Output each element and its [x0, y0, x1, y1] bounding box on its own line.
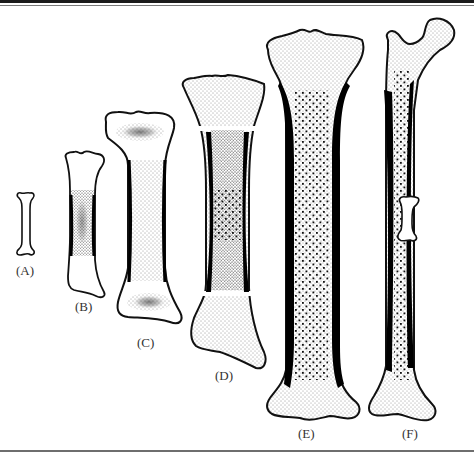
bone-stage-c: [106, 111, 182, 323]
label-stage-b: (B): [75, 299, 92, 314]
bone-stage-d: [183, 75, 266, 368]
label-stage-f: (F): [402, 426, 418, 441]
label-stage-a: (A): [16, 263, 34, 278]
label-stage-e: (E): [298, 426, 315, 441]
label-stage-d: (D): [215, 368, 233, 383]
bone-stage-a: [17, 193, 34, 255]
bone-stage-f: [369, 18, 454, 420]
bone-development-diagram: (A) (B) (C) (D) (E): [0, 0, 474, 455]
bottom-rule: [0, 450, 474, 452]
label-stage-c: (C): [137, 335, 154, 350]
bone-stage-b: [65, 151, 104, 297]
bone-stage-e: [267, 30, 363, 420]
